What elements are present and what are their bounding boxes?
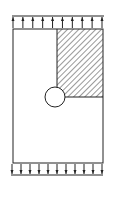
arrow-down-icon <box>11 164 104 174</box>
central-hole <box>45 87 65 107</box>
bottom-traction-load <box>11 164 104 175</box>
plate-diagram <box>0 0 117 197</box>
hatched-quarter-region <box>57 29 103 97</box>
top-traction-load <box>12 16 105 28</box>
arrow-up-icon <box>12 17 104 28</box>
